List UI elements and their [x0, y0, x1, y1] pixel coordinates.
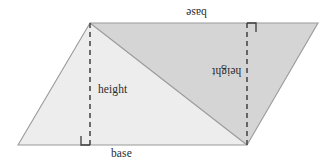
height-label-right: height	[212, 65, 241, 77]
base-label-top: base	[186, 6, 207, 18]
figure-canvas	[0, 0, 336, 166]
height-label-left: height	[98, 84, 127, 96]
base-label-bottom: base	[111, 148, 132, 160]
parallelogram-figure: base base height height	[0, 0, 336, 166]
